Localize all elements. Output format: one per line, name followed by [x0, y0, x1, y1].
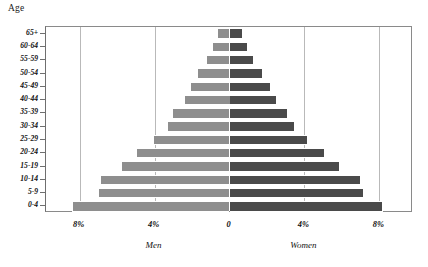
y-axis-tick — [40, 192, 45, 193]
y-axis-tick — [40, 46, 45, 47]
bar-men — [167, 121, 230, 131]
bar-women — [230, 175, 361, 185]
bar-men — [206, 55, 229, 65]
y-axis-tick — [40, 99, 45, 100]
population-pyramid-figure: Age 65+60-6455-5950-5445-4940-4435-3930-… — [0, 0, 428, 267]
bar-row — [46, 201, 411, 211]
y-axis-tick — [40, 33, 45, 34]
y-axis-tick-label: 50-54 — [0, 68, 38, 77]
bar-row — [46, 82, 411, 92]
bar-women — [230, 148, 325, 158]
y-axis-tick — [40, 112, 45, 113]
y-axis-tick — [40, 86, 45, 87]
series-label-women: Women — [290, 240, 316, 250]
y-axis-tick — [40, 73, 45, 74]
y-axis-tick — [40, 59, 45, 60]
bar-women — [230, 68, 264, 78]
bar-men — [153, 135, 230, 145]
bar-men — [184, 95, 230, 105]
y-axis-tick-label: 60-64 — [0, 41, 38, 50]
bar-women — [230, 42, 249, 52]
y-axis-tick — [40, 205, 45, 206]
y-axis-tick-label: 40-44 — [0, 94, 38, 103]
y-axis-tick-label: 20-24 — [0, 147, 38, 156]
bar-men — [72, 201, 229, 211]
x-axis-tick-label: 8% — [73, 220, 84, 229]
bar-men — [136, 148, 230, 158]
series-label-men: Men — [146, 240, 162, 250]
bar-row — [46, 28, 411, 38]
plot-area — [45, 26, 412, 212]
x-axis-tick-label: 8% — [373, 220, 384, 229]
x-axis-tick-label: 0 — [226, 220, 230, 229]
y-axis-tick-label: 55-59 — [0, 54, 38, 63]
bar-men — [121, 161, 230, 171]
bar-women — [230, 188, 365, 198]
bar-row — [46, 55, 411, 65]
y-axis-tick-label: 65+ — [0, 28, 38, 37]
y-axis-tick — [40, 179, 45, 180]
bar-row — [46, 135, 411, 145]
y-axis-tick-label: 5-9 — [0, 187, 38, 196]
bar-women — [230, 95, 278, 105]
bar-women — [230, 161, 340, 171]
y-axis-tick-label: 30-34 — [0, 121, 38, 130]
y-axis-tick-label: 0-4 — [0, 200, 38, 209]
x-axis-tick-label: 4% — [148, 220, 159, 229]
bar-women — [230, 55, 254, 65]
y-axis-labels: 65+60-6455-5950-5445-4940-4435-3930-3425… — [0, 26, 38, 212]
y-axis-tick-label: 15-19 — [0, 161, 38, 170]
bar-row — [46, 108, 411, 118]
bar-men — [217, 28, 229, 38]
bar-women — [230, 135, 309, 145]
bar-men — [197, 68, 230, 78]
bars-layer — [46, 27, 411, 211]
bar-women — [230, 108, 288, 118]
y-axis-tick — [40, 166, 45, 167]
bar-row — [46, 95, 411, 105]
bar-women — [230, 201, 384, 211]
y-axis-tick-label: 25-29 — [0, 134, 38, 143]
x-axis-tick-label: 4% — [298, 220, 309, 229]
y-axis-tick-label: 45-49 — [0, 81, 38, 90]
bar-men — [212, 42, 230, 52]
bar-men — [100, 175, 229, 185]
bar-men — [98, 188, 229, 198]
age-axis-title: Age — [8, 3, 24, 13]
bar-row — [46, 68, 411, 78]
y-axis-tick — [40, 126, 45, 127]
bar-row — [46, 121, 411, 131]
bar-women — [230, 82, 271, 92]
y-axis-tick — [40, 152, 45, 153]
bar-row — [46, 188, 411, 198]
bar-men — [190, 82, 229, 92]
bar-row — [46, 148, 411, 158]
bar-women — [230, 28, 243, 38]
bar-men — [172, 108, 229, 118]
bar-row — [46, 161, 411, 171]
y-axis-tick-label: 10-14 — [0, 174, 38, 183]
bar-women — [230, 121, 296, 131]
y-axis-tick-label: 35-39 — [0, 107, 38, 116]
y-axis-tick — [40, 139, 45, 140]
bar-row — [46, 175, 411, 185]
bar-row — [46, 42, 411, 52]
